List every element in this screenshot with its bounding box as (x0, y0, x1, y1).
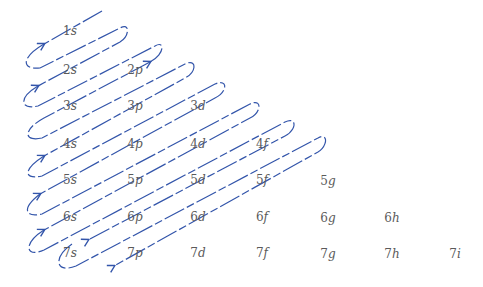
orbital-6g: 6g (320, 212, 335, 224)
orbital-6d: 6d (190, 211, 205, 223)
orbital-5d: 5d (190, 174, 205, 186)
orbital-7d: 7d (190, 247, 205, 259)
orbital-2s: 2s (63, 64, 77, 76)
orbital-3s: 3s (63, 100, 77, 112)
orbital-4s: 4s (63, 138, 77, 150)
orbital-6h: 6h (384, 212, 399, 224)
orbital-6s: 6s (63, 211, 77, 223)
orbital-5s: 5s (63, 174, 77, 186)
orbital-5p: 5p (127, 174, 142, 186)
orbital-5g: 5g (320, 175, 335, 187)
orbital-5f: 5f (256, 174, 268, 186)
orbital-7p: 7p (127, 247, 142, 259)
orbital-7g: 7g (320, 248, 335, 260)
orbital-7h: 7h (384, 248, 399, 260)
orbital-1s: 1s (63, 25, 77, 37)
aufbau-diagram: 1s 2s 2p 3s 3p 3d 4s 4p 4d 4f 5s 5p 5d 5… (0, 0, 483, 287)
orbital-6p: 6p (127, 211, 142, 223)
orbital-4p: 4p (127, 138, 142, 150)
orbital-3d: 3d (190, 100, 205, 112)
orbital-2p: 2p (127, 64, 142, 76)
orbital-7s: 7s (63, 247, 77, 259)
orbital-7i: 7i (449, 248, 460, 260)
orbital-4d: 4d (190, 138, 205, 150)
orbital-4f: 4f (256, 138, 268, 150)
orbital-6f: 6f (256, 211, 268, 223)
orbital-7f: 7f (256, 247, 268, 259)
orbital-3p: 3p (127, 100, 142, 112)
